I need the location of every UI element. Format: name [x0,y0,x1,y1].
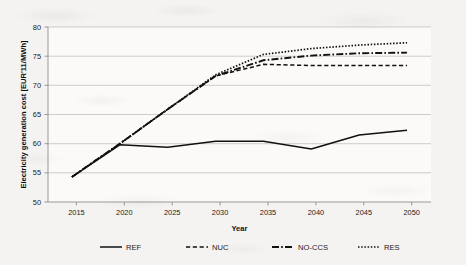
x-tick-label: 2015 [68,208,84,217]
x-tick-label: 2040 [308,208,324,217]
x-tick-labels: 2015 2020 2025 2030 2035 2040 2045 2050 [68,208,420,217]
chart-legend: REFNUCNO-CCSRES [100,243,400,252]
legend-label: NUC [212,243,229,252]
x-tick-label: 2050 [403,208,419,217]
legend-item-nuc[interactable]: NUC [186,243,229,252]
legend-item-res[interactable]: RES [358,243,400,252]
legend-label: REF [126,243,142,252]
line-chart-figure: 50 55 60 65 70 75 80 2015 2020 2025 2030… [0,0,466,265]
y-tick-label: 60 [33,139,41,148]
x-tickmarks [76,202,411,206]
legend-item-no-ccs[interactable]: NO-CCS [272,243,328,252]
x-tick-label: 2045 [356,208,372,217]
y-tick-labels: 50 55 60 65 70 75 80 [33,23,41,207]
y-tick-label: 75 [33,52,41,61]
chart-canvas: 50 55 60 65 70 75 80 2015 2020 2025 2030… [0,0,466,265]
x-tick-label: 2020 [116,208,132,217]
y-tick-label: 70 [33,81,41,90]
legend-item-ref[interactable]: REF [100,243,142,252]
y-tickmarks [45,27,49,202]
legend-label: NO-CCS [298,243,328,252]
x-tick-label: 2035 [260,208,276,217]
y-tick-label: 55 [33,168,41,177]
y-tick-label: 50 [33,198,41,207]
x-tick-label: 2030 [212,208,228,217]
x-axis-title: Year [231,224,247,233]
legend-label: RES [384,243,400,252]
y-axis-title: Electricity generation cost [EUR'11/MWh] [19,40,28,189]
x-tick-label: 2025 [164,208,180,217]
y-tick-label: 65 [33,110,41,119]
y-tick-label: 80 [33,23,41,32]
